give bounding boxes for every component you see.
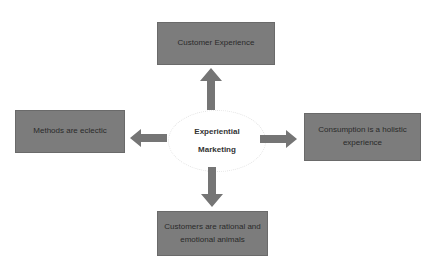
arrow-down-icon — [201, 167, 223, 207]
arrow-left-icon — [130, 129, 167, 147]
arrow-right-icon — [260, 130, 297, 148]
arrow-up-icon — [200, 68, 222, 110]
node-label: Methods are eclectic — [33, 125, 106, 138]
node-methods-eclectic: Methods are eclectic — [15, 110, 125, 153]
center-label-line1: Experiential — [194, 123, 239, 141]
center-concept: Experiential Marketing — [168, 110, 266, 172]
node-label: Customers are rational and emotional ani… — [164, 221, 261, 247]
node-customer-experience: Customer Experience — [157, 22, 275, 65]
node-consumption-holistic: Consumption is a holistic experience — [304, 113, 421, 161]
node-label: Consumption is a holistic experience — [311, 124, 414, 150]
center-label-line2: Marketing — [198, 141, 236, 159]
node-label: Customer Experience — [178, 37, 255, 50]
node-customers-rational-emotional: Customers are rational and emotional ani… — [157, 211, 268, 256]
